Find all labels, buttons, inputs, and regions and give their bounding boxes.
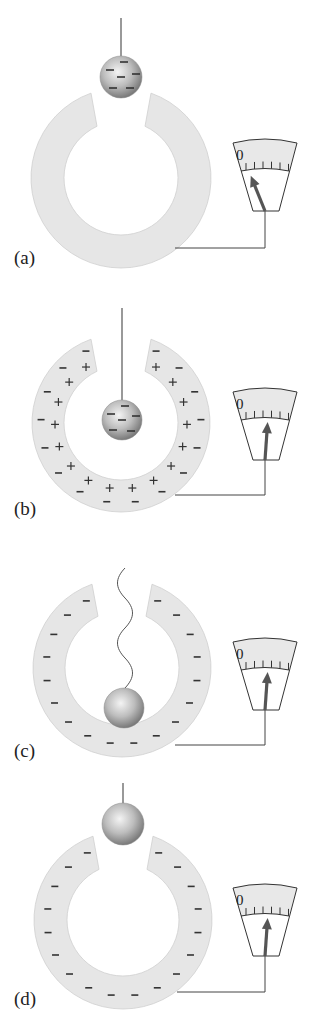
conducting-shell [33,584,211,757]
meter-zero-label: 0 [236,147,244,163]
panel-c: 0(c) [14,568,297,762]
electrometer: 0 [233,638,297,710]
neutral-metal-ball [102,803,144,845]
electrometer: 0 [233,139,297,211]
panel-b: 0(b) [14,308,297,520]
neutral-metal-ball [104,688,144,728]
meter-zero-label: 0 [236,396,244,412]
meter-needle [250,176,265,211]
meter-zero-label: 0 [236,892,244,908]
panel-label-b: (b) [14,498,36,520]
meter-needle [262,918,272,956]
panel-a: 0(a) [14,18,297,269]
electrometer: 0 [233,884,297,956]
meter-needle [262,672,272,710]
panel-label-d: (d) [14,988,36,1010]
meter-needle [262,422,272,460]
meter-zero-label: 0 [236,646,244,662]
conducting-shell [31,93,211,268]
electrometer: 0 [233,388,297,460]
conducting-shell [34,836,212,1009]
panel-label-c: (c) [14,740,35,762]
slack-thread [118,568,133,688]
electrostatic-induction-figure: 0(a)0(b)0(c)0(d) [0,0,310,1023]
panel-label-a: (a) [14,247,35,269]
panel-d: 0(d) [14,783,297,1010]
